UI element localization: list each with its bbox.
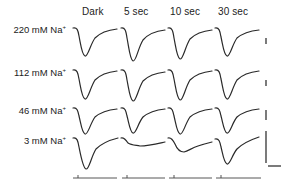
trace-112-5sec bbox=[121, 70, 165, 101]
trace-row-46mM bbox=[73, 108, 259, 134]
trace-3-30sec bbox=[215, 137, 259, 164]
trace-row-3mM bbox=[73, 137, 259, 169]
trace-3-dark bbox=[73, 138, 118, 169]
trace-112-10sec bbox=[168, 70, 212, 100]
trace-46-dark bbox=[73, 108, 117, 134]
trace-220-10sec bbox=[168, 28, 212, 59]
trace-112-30sec bbox=[215, 70, 259, 99]
trace-row-220mM bbox=[73, 28, 259, 61]
trace-3-5sec bbox=[121, 138, 165, 146]
trace-3-10sec bbox=[168, 138, 212, 152]
trace-row-112mM bbox=[73, 70, 259, 101]
trace-220-30sec bbox=[215, 28, 259, 56]
scale-bars bbox=[266, 38, 281, 166]
waveform-figure: Dark 5 sec 10 sec 30 sec 220 mM Na+ 112 … bbox=[0, 0, 290, 190]
trace-46-30sec bbox=[215, 108, 259, 133]
trace-220-5sec bbox=[121, 28, 165, 61]
traces-plot bbox=[0, 0, 290, 190]
trace-46-10sec bbox=[168, 108, 212, 134]
trace-112-dark bbox=[73, 70, 117, 99]
trace-46-5sec bbox=[121, 108, 165, 133]
stimulus-markers bbox=[73, 175, 261, 178]
trace-220-dark bbox=[73, 28, 117, 56]
